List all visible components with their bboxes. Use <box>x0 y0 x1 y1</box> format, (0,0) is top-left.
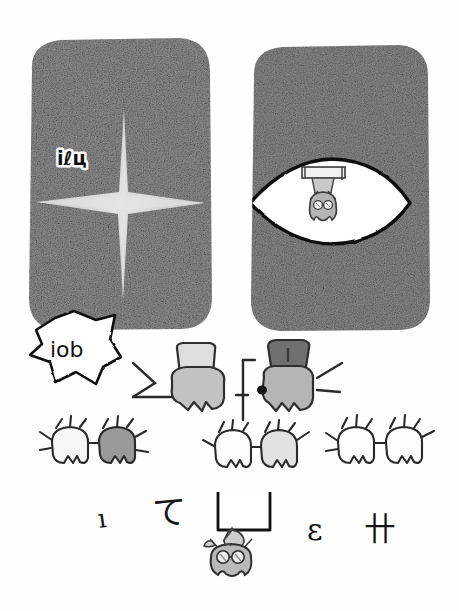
ceiling-ledge <box>218 492 270 530</box>
figure-dark-dot <box>257 385 267 394</box>
glyph-right-1: ε <box>307 512 323 547</box>
creature-5-body <box>338 427 374 463</box>
glyph-right-2: 卄 <box>364 510 396 548</box>
left-panel-caption: iℓц iℓц <box>57 147 87 169</box>
comic-scene: iℓц iℓц <box>0 0 459 611</box>
creature-legs-wrap <box>312 178 334 193</box>
comic-canvas: iℓц iℓц <box>0 0 459 611</box>
creature-1-body <box>52 427 88 463</box>
creature-4-body <box>261 430 297 467</box>
hanging-bat-creature <box>310 178 337 221</box>
creature-3-body <box>215 430 251 467</box>
bar-plate <box>302 167 345 178</box>
creature-6-body <box>386 427 422 463</box>
panel-caption-text: iℓц <box>57 147 87 169</box>
left-grainy-panel: iℓц iℓц <box>29 38 212 330</box>
speech-bubble-text: iοb <box>50 337 84 362</box>
figure-body-dark <box>263 366 313 411</box>
glyph-left-2: て <box>152 492 186 532</box>
right-grainy-panel <box>250 45 430 331</box>
creature-2-body <box>99 427 135 463</box>
